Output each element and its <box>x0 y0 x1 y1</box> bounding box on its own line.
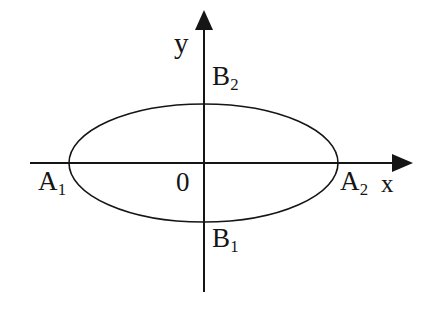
top-covertex-label-base: B <box>212 61 230 91</box>
right-vertex-label: A2 <box>340 168 368 195</box>
left-vertex-label: A1 <box>38 168 66 195</box>
top-covertex-label-subscript: 2 <box>230 75 238 94</box>
top-covertex-label: B2 <box>212 63 238 90</box>
y-axis-label: y <box>174 29 189 58</box>
bottom-covertex-label-base: B <box>212 223 230 253</box>
origin-label: 0 <box>176 169 190 196</box>
left-vertex-label-base: A <box>38 166 58 196</box>
left-vertex-label-subscript: 1 <box>58 180 66 199</box>
x-axis-label: x <box>381 171 394 196</box>
bottom-covertex-label: B1 <box>212 225 238 252</box>
x-axis-arrowhead-icon <box>392 154 413 172</box>
right-vertex-label-base: A <box>340 166 360 196</box>
bottom-covertex-label-subscript: 1 <box>230 237 238 256</box>
ellipse-figure: y x 0 A1 A2 B2 B1 <box>0 0 434 309</box>
right-vertex-label-subscript: 2 <box>360 180 368 199</box>
figure-canvas <box>0 0 434 309</box>
y-axis-arrowhead-icon <box>195 10 213 30</box>
